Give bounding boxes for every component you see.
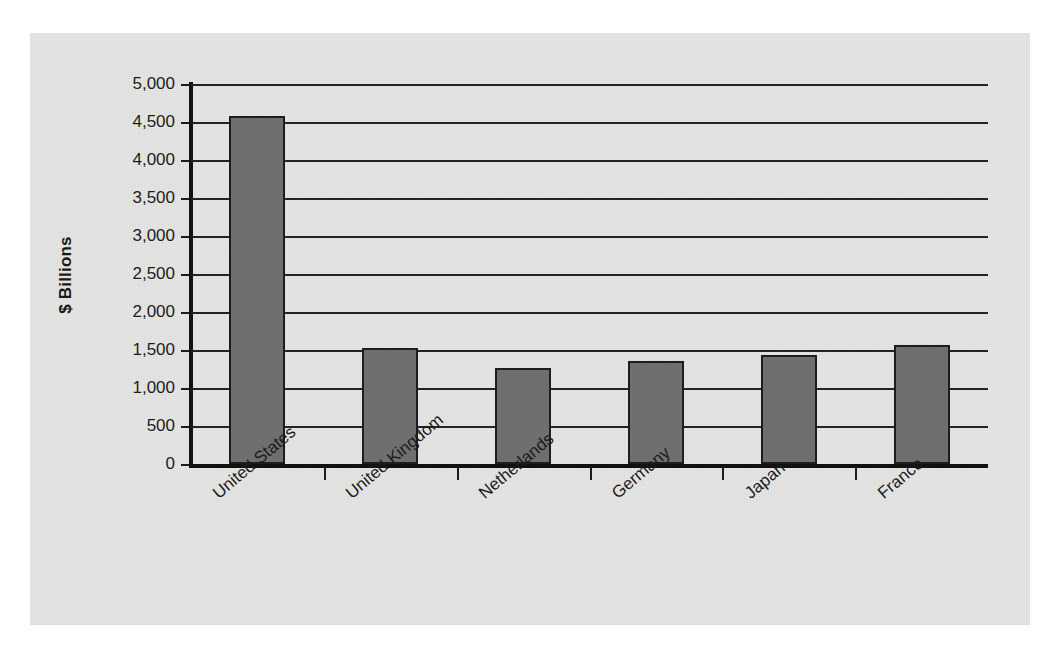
gridline bbox=[191, 274, 988, 276]
gridline bbox=[191, 426, 988, 428]
plot-area bbox=[191, 84, 988, 464]
y-axis-tick-label: 4,500 bbox=[55, 112, 175, 132]
bar bbox=[229, 116, 285, 464]
x-axis-tick-mark bbox=[722, 468, 724, 480]
y-axis-tick-label: 500 bbox=[55, 416, 175, 436]
gridline bbox=[191, 350, 988, 352]
gridline bbox=[191, 312, 988, 314]
x-axis-tick-mark bbox=[855, 468, 857, 480]
x-axis-tick-marks bbox=[191, 468, 988, 482]
gridline bbox=[191, 198, 988, 200]
gridline bbox=[191, 160, 988, 162]
bar bbox=[894, 345, 950, 464]
gridline bbox=[191, 122, 988, 124]
bar bbox=[761, 355, 817, 464]
y-axis-tick-label: 1,000 bbox=[55, 378, 175, 398]
x-axis-category-labels: United StatesUnited KingdomNetherlandsGe… bbox=[191, 488, 988, 608]
y-axis-tick-label: 0 bbox=[55, 454, 175, 474]
x-axis-tick-mark bbox=[457, 468, 459, 480]
y-axis-tick-label: 4,000 bbox=[55, 150, 175, 170]
chart-panel: $ Billions 5,0004,5004,0003,5003,0002,50… bbox=[30, 33, 1030, 625]
y-axis-tick-label: 5,000 bbox=[55, 74, 175, 94]
y-axis-tick-labels: 5,0004,5004,0003,5003,0002,5002,0001,500… bbox=[55, 84, 175, 464]
y-axis-tick-label: 3,000 bbox=[55, 226, 175, 246]
gridline bbox=[191, 84, 988, 86]
x-axis-tick-mark bbox=[324, 468, 326, 480]
x-axis-tick-mark bbox=[590, 468, 592, 480]
y-axis-tick-label: 1,500 bbox=[55, 340, 175, 360]
y-axis-tick-label: 2,000 bbox=[55, 302, 175, 322]
gridline bbox=[191, 388, 988, 390]
y-axis-tick-label: 2,500 bbox=[55, 264, 175, 284]
gridline bbox=[191, 236, 988, 238]
y-axis-tick-label: 3,500 bbox=[55, 188, 175, 208]
